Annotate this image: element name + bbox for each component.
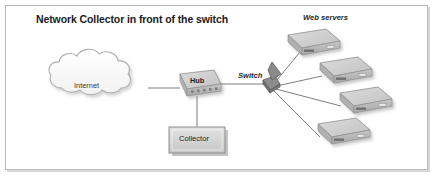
connection-lines — [148, 46, 341, 137]
server-icon-3 — [340, 87, 392, 113]
diagram-canvas — [0, 0, 435, 179]
web-servers-group — [288, 29, 392, 144]
hub-label: Hub — [190, 76, 204, 85]
figure-root: Network Collector in front of the switch… — [0, 0, 435, 179]
link-switch-server-3 — [272, 88, 341, 106]
link-switch-server-4 — [272, 89, 320, 137]
collector-label: Collector — [179, 134, 209, 143]
switch-label: Switch — [238, 71, 262, 80]
web-servers-label: Web servers — [303, 13, 348, 22]
server-icon-4 — [318, 118, 370, 144]
cloud-label: Internet — [74, 81, 99, 90]
server-icon-2 — [320, 57, 372, 83]
server-icon-1 — [288, 29, 340, 55]
switch-device-icon — [263, 62, 281, 93]
figure-title: Network Collector in front of the switch — [36, 13, 228, 25]
